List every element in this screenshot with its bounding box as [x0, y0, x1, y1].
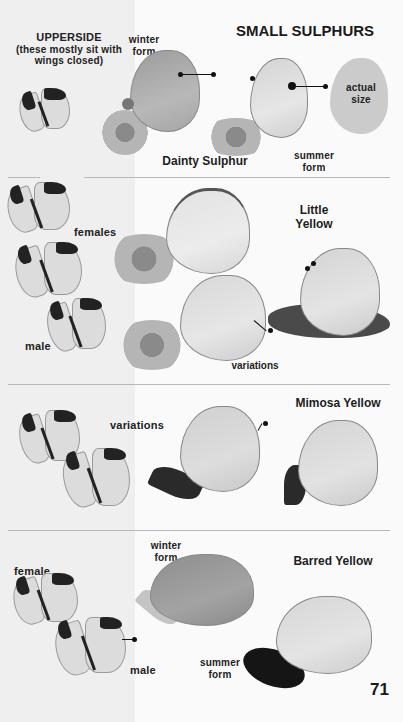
- right-wingtip: [54, 410, 76, 422]
- right-wingtip: [104, 448, 126, 460]
- variations-label: variations: [230, 360, 280, 372]
- species-name-little-yellow: Little Yellow: [282, 204, 346, 232]
- species-label: Little Yellow: [295, 203, 332, 231]
- little-yellow-butterfly: [166, 188, 250, 274]
- marker-dot: [268, 328, 273, 333]
- right-wingtip: [44, 88, 66, 100]
- mimosa-yellow-butterfly: [180, 406, 260, 492]
- male-label: male: [130, 664, 156, 677]
- pointer-line: [182, 74, 212, 75]
- wing: [180, 275, 266, 361]
- wing: [166, 188, 250, 274]
- mimosa-yellow-upperside-butterfly: [64, 448, 130, 516]
- marker-dot: [323, 84, 328, 89]
- wing: [276, 596, 372, 674]
- barred-yellow-winter-butterfly: [150, 554, 254, 626]
- wing-spot: [288, 82, 296, 90]
- wing: [250, 58, 308, 138]
- right-wingtip: [100, 617, 122, 629]
- marker-dot: [263, 421, 268, 426]
- pointer-line: [296, 86, 324, 87]
- little-yellow-female-butterfly: [8, 182, 70, 238]
- section-divider: [8, 530, 390, 531]
- right-wingtip: [56, 242, 78, 254]
- page-number: 71: [370, 680, 389, 700]
- dainty-sulphur-summer-butterfly: [250, 58, 308, 138]
- upperside-label: UPPERSIDE: [14, 31, 124, 44]
- upperside-note: (these mostly sit with wings closed): [14, 44, 124, 67]
- barred-yellow-summer-butterfly: [276, 596, 372, 674]
- upperside-heading: UPPERSIDE (these mostly sit with wings c…: [14, 31, 124, 67]
- little-yellow-male-butterfly: [48, 298, 106, 358]
- actual-size-label: actual size: [336, 82, 386, 105]
- marker-dot: [250, 76, 255, 81]
- butterfly-head: [122, 98, 134, 110]
- wing: [180, 406, 260, 492]
- dainty-sulphur-upperside-butterfly: [20, 88, 70, 136]
- barred-yellow-male-butterfly: [56, 617, 126, 683]
- variations-label: variations: [110, 419, 164, 432]
- little-yellow-female-butterfly: [16, 242, 82, 304]
- species-name-dainty-sulphur: Dainty Sulphur: [150, 155, 260, 169]
- right-wingtip: [80, 298, 102, 310]
- summer-form-label: summer form: [292, 150, 336, 173]
- females-label: females: [74, 226, 116, 239]
- right-wingtip: [52, 573, 74, 585]
- species-name-barred-yellow: Barred Yellow: [278, 555, 388, 569]
- wing: [130, 50, 200, 132]
- wing: [298, 420, 378, 506]
- marker-dot: [132, 637, 137, 642]
- section-divider: [8, 384, 390, 385]
- marker-dot: [211, 72, 216, 77]
- right-wingtip: [44, 182, 66, 194]
- section-divider: [8, 177, 40, 178]
- marker-dot: [311, 261, 316, 266]
- species-name-mimosa-yellow: Mimosa Yellow: [283, 397, 393, 411]
- page-title: SMALL SULPHURS: [236, 22, 374, 39]
- summer-form-label: summer form: [198, 657, 242, 680]
- male-label: male: [25, 340, 51, 353]
- dainty-sulphur-winter-butterfly: [130, 50, 200, 132]
- marker-dot: [305, 266, 310, 271]
- mimosa-yellow-butterfly: [298, 420, 378, 506]
- section-divider: [84, 177, 390, 178]
- little-yellow-variation-butterfly: [180, 275, 266, 361]
- wing: [150, 554, 254, 626]
